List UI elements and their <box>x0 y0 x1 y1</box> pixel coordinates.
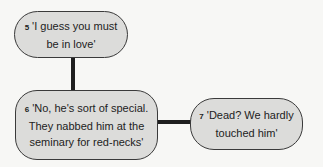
node-7-content: 7'Dead? We hardly touched him' <box>199 107 293 141</box>
node-7: 7'Dead? We hardly touched him' <box>190 98 303 150</box>
node-6-number: 6 <box>25 105 29 114</box>
node-5-content: 5'I guess you must be in love' <box>25 18 118 52</box>
node-6-content: 6'No, he's sort of special. They nabbed … <box>25 100 149 150</box>
connector-6-7 <box>157 120 191 124</box>
node-6-text: 'No, he's sort of special. They nabbed h… <box>29 102 149 148</box>
node-5-number: 5 <box>25 23 29 32</box>
node-6: 6'No, he's sort of special. They nabbed … <box>15 90 158 160</box>
node-5: 5'I guess you must be in love' <box>14 11 128 58</box>
node-7-text: 'Dead? We hardly touched him' <box>207 109 294 139</box>
connector-5-6 <box>71 57 75 91</box>
node-7-number: 7 <box>199 112 203 121</box>
node-5-text: 'I guess you must be in love' <box>32 20 117 50</box>
